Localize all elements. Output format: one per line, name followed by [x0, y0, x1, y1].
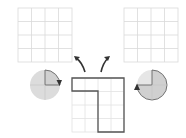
right-grid	[124, 8, 178, 62]
right-rotation-circle-icon	[134, 70, 167, 100]
rotation-diagram	[0, 0, 186, 138]
left-grid	[18, 8, 72, 62]
left-rotation-circle-icon	[30, 70, 62, 100]
left-curved-arrow-icon	[74, 56, 85, 72]
right-curved-arrow-icon	[101, 56, 110, 72]
